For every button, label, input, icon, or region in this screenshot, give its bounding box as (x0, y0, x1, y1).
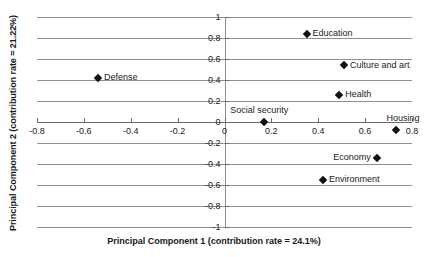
y-tick-label: 0.8 (183, 33, 221, 43)
diamond-marker-icon (260, 118, 268, 126)
y-tick-label: -0.4 (183, 159, 221, 169)
data-point-label: Economy (333, 153, 371, 162)
x-axis-title: Principal Component 1 (contribution rate… (14, 236, 414, 246)
x-tick-label: 0.2 (251, 126, 291, 136)
data-point-label: Environment (329, 175, 380, 184)
diamond-marker-icon (340, 61, 348, 69)
x-tick-label: 0.4 (298, 126, 338, 136)
x-tick-label: -0.6 (64, 126, 104, 136)
y-tick-label: 1 (183, 12, 221, 22)
y-tick (225, 38, 229, 39)
y-tick-label: -0.6 (183, 180, 221, 190)
y-tick (225, 17, 229, 18)
y-tick (225, 80, 229, 81)
data-point-label: Defense (104, 73, 138, 82)
y-tick-label: 0 (183, 117, 221, 127)
x-tick-label: 0.6 (345, 126, 385, 136)
x-tick (84, 118, 85, 122)
data-point-label: Education (313, 29, 353, 38)
y-tick-label: 0.6 (183, 54, 221, 64)
data-point-label: Culture and art (350, 61, 410, 70)
y-tick (225, 185, 229, 186)
y-tick (225, 59, 229, 60)
plot-area: -0.8-0.6-0.4-0.200.20.40.60.8 10.80.60.4… (37, 17, 412, 227)
y-tick-label: -1 (183, 222, 221, 232)
x-tick (131, 118, 132, 122)
x-tick (178, 118, 179, 122)
data-point-label: Social security (230, 106, 288, 115)
diamond-marker-icon (319, 176, 327, 184)
x-tick (37, 118, 38, 122)
y-tick-label: 0.2 (183, 96, 221, 106)
y-tick (225, 164, 229, 165)
y-tick (225, 101, 229, 102)
data-point-label: Health (345, 90, 371, 99)
diamond-marker-icon (335, 90, 343, 98)
data-point-label: Housing (387, 114, 420, 123)
x-tick (365, 118, 366, 122)
x-tick-label: -0.2 (158, 126, 198, 136)
x-tick-label: 0 (205, 126, 245, 136)
y-axis-title: Principal Component 2 (contribution rate… (8, 9, 18, 237)
y-tick-label: -0.8 (183, 201, 221, 211)
y-tick (225, 206, 229, 207)
y-tick (225, 143, 229, 144)
x-tick (271, 118, 272, 122)
y-tick (225, 122, 229, 123)
y-tick-label: -0.2 (183, 138, 221, 148)
pca-scatter-figure: Principal Component 2 (contribution rate… (0, 0, 424, 257)
diamond-marker-icon (302, 30, 310, 38)
x-tick (318, 118, 319, 122)
x-tick-label: -0.4 (111, 126, 151, 136)
y-tick-label: 0.4 (183, 75, 221, 85)
y-tick (225, 227, 229, 228)
x-tick-label: -0.8 (17, 126, 57, 136)
diamond-marker-icon (373, 153, 381, 161)
